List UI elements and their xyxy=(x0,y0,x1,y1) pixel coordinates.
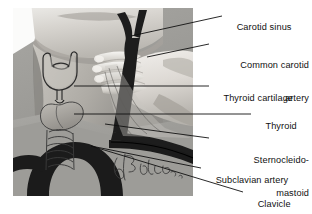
label-clavicle: Clavicle xyxy=(247,188,291,214)
leader-sternocleidomastoid xyxy=(105,124,209,138)
label-subclavian-artery-line1: Subclavian artery xyxy=(216,175,289,185)
label-thyroid-cartilage-line1: Thyroid cartilage xyxy=(223,93,293,103)
leader-carotid-sinus xyxy=(131,16,222,36)
leader-subclavian-artery xyxy=(91,146,201,168)
label-common-carotid-artery-line1: Common carotid xyxy=(213,60,309,71)
anatomy-figure: Carotid sinus Common carotid artery Thyr… xyxy=(0,0,312,214)
leader-common-carotid-artery xyxy=(147,44,209,57)
label-thyroid-line1: Thyroid xyxy=(265,121,296,131)
label-carotid-sinus-line1: Carotid sinus xyxy=(237,22,292,32)
label-clavicle-line1: Clavicle xyxy=(258,199,291,209)
